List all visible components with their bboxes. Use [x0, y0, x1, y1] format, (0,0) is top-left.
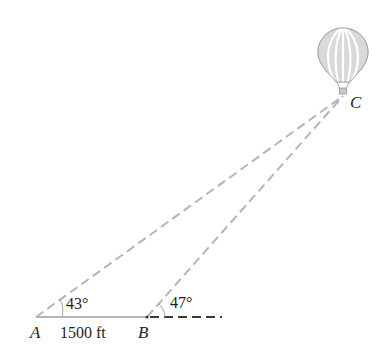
point-B-marker: [145, 315, 148, 318]
angle-arc-B: [159, 304, 165, 317]
point-C-label: C: [350, 93, 362, 112]
point-A-label: A: [29, 323, 41, 342]
angle-B-label: 47°: [170, 294, 192, 311]
line-BC: [147, 96, 343, 317]
distance-label: 1500 ft: [60, 324, 106, 341]
angle-A-label: 43°: [66, 295, 88, 312]
triangulation-diagram: 43° 47° A 1500 ft B C: [0, 0, 383, 359]
line-AC: [36, 96, 343, 317]
point-B-label: B: [138, 323, 149, 342]
angle-arc-A: [60, 299, 63, 317]
hot-air-balloon-icon: [318, 26, 368, 94]
